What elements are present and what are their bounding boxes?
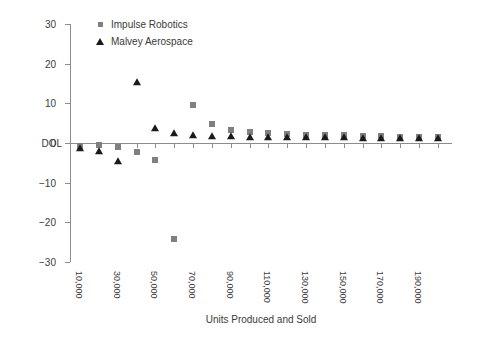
x-axis-line bbox=[70, 143, 452, 144]
y-axis-tick-label: 30 bbox=[0, 19, 56, 30]
y-axis-tick bbox=[65, 183, 70, 184]
y-axis-tick bbox=[65, 103, 70, 104]
data-point-triangle bbox=[189, 131, 197, 138]
x-axis-tick bbox=[363, 143, 364, 148]
x-axis-tick bbox=[306, 143, 307, 148]
x-axis-tick-label: 10,000 bbox=[74, 271, 84, 299]
data-point-triangle bbox=[302, 134, 310, 141]
data-point-triangle bbox=[170, 129, 178, 136]
data-point-triangle bbox=[377, 134, 385, 141]
x-axis-tick bbox=[287, 143, 288, 148]
data-point-square bbox=[171, 236, 177, 242]
x-axis-tick bbox=[344, 143, 345, 148]
y-axis-tick bbox=[65, 143, 70, 144]
data-point-triangle bbox=[434, 134, 442, 141]
y-axis-tick bbox=[65, 222, 70, 223]
x-axis-tick bbox=[268, 143, 269, 148]
y-axis-tick-label: 20 bbox=[0, 58, 56, 69]
x-axis-tick bbox=[381, 143, 382, 148]
y-axis-tick-label: −30 bbox=[0, 257, 56, 268]
x-axis-tick-label: 190,000 bbox=[413, 271, 423, 304]
data-point-triangle bbox=[133, 78, 141, 85]
x-axis-tick bbox=[231, 143, 232, 148]
y-axis-tick-label: 0 bbox=[0, 138, 56, 149]
x-axis-tick bbox=[325, 143, 326, 148]
x-axis-tick-label: 170,000 bbox=[375, 271, 385, 304]
y-axis-tick-label: −20 bbox=[0, 217, 56, 228]
data-point-triangle bbox=[321, 134, 329, 141]
x-axis-tick-label: 150,000 bbox=[338, 271, 348, 304]
x-axis-tick bbox=[419, 143, 420, 148]
x-axis-tick-label: 130,000 bbox=[300, 271, 310, 304]
x-axis-tick-label: 30,000 bbox=[112, 271, 122, 299]
data-point-square bbox=[134, 149, 140, 155]
x-axis-tick bbox=[155, 143, 156, 148]
x-axis-tick-label: 50,000 bbox=[149, 271, 159, 299]
x-axis-tick-label: 90,000 bbox=[225, 271, 235, 299]
x-axis-tick bbox=[212, 143, 213, 148]
plot-area: DOL Units Produced and Sold 3020100−10−2… bbox=[70, 24, 452, 262]
x-axis-tick bbox=[174, 143, 175, 148]
data-point-triangle bbox=[227, 132, 235, 139]
x-axis-tick-label: 110,000 bbox=[262, 271, 272, 303]
data-point-triangle bbox=[95, 147, 103, 154]
data-point-square bbox=[209, 121, 215, 127]
data-point-triangle bbox=[76, 144, 84, 151]
data-point-triangle bbox=[340, 134, 348, 141]
data-point-square bbox=[115, 144, 121, 150]
data-point-square bbox=[152, 157, 158, 163]
y-axis-tick bbox=[65, 262, 70, 263]
data-point-triangle bbox=[415, 134, 423, 141]
data-point-triangle bbox=[359, 134, 367, 141]
x-axis-tick-label: 70,000 bbox=[187, 271, 197, 299]
dol-scatter-chart: Impulse Robotics Malvey Aerospace DOL Un… bbox=[0, 0, 477, 347]
y-axis-tick-label: −10 bbox=[0, 177, 56, 188]
x-axis-tick bbox=[137, 143, 138, 148]
x-axis-tick bbox=[193, 143, 194, 148]
y-axis-tick-label: 10 bbox=[0, 98, 56, 109]
data-point-triangle bbox=[264, 133, 272, 140]
data-point-triangle bbox=[151, 124, 159, 131]
data-point-triangle bbox=[246, 133, 254, 140]
x-axis-tick bbox=[400, 143, 401, 148]
data-point-triangle bbox=[283, 133, 291, 140]
x-axis-tick bbox=[250, 143, 251, 148]
y-axis-tick bbox=[65, 64, 70, 65]
data-point-square bbox=[190, 102, 196, 108]
data-point-triangle bbox=[208, 132, 216, 139]
x-axis-title: Units Produced and Sold bbox=[70, 314, 452, 325]
data-point-triangle bbox=[396, 134, 404, 141]
x-axis-tick bbox=[438, 143, 439, 148]
y-axis-tick bbox=[65, 24, 70, 25]
data-point-triangle bbox=[114, 157, 122, 164]
